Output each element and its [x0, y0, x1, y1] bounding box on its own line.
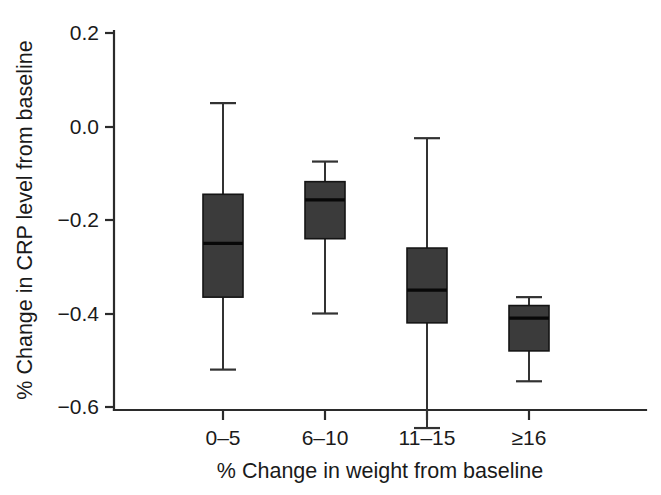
y-tick-label-0: 0.2	[70, 21, 99, 44]
y-tick-label-1: 0.0	[70, 115, 99, 138]
x-tick-label-1: 6–10	[302, 426, 349, 449]
interquartile-box	[305, 182, 345, 239]
y-tick-label-2: −0.2	[58, 208, 99, 231]
y-axis-title: % Change in CRP level from baseline	[13, 40, 37, 399]
box-plot-series	[203, 103, 549, 428]
x-tick-label-2: 11–15	[399, 426, 456, 449]
y-tick-label-4: −0.6	[58, 395, 99, 418]
interquartile-box	[203, 194, 243, 297]
y-axis-ticks: 0.2 0.0 −0.2 −0.4 −0.6	[58, 21, 114, 418]
box-plot-item	[203, 103, 243, 369]
x-tick-label-3: ≥16	[512, 426, 547, 449]
box-plot-figure: 0.2 0.0 −0.2 −0.4 −0.6 0–5 6–10 11–15 ≥1…	[0, 0, 661, 495]
x-tick-label-0: 0–5	[205, 426, 240, 449]
box-plot-item	[305, 162, 345, 314]
y-tick-label-3: −0.4	[58, 302, 100, 325]
box-plot-item	[509, 297, 549, 381]
x-axis-ticks: 0–5 6–10 11–15 ≥16	[205, 410, 546, 449]
x-axis-title: % Change in weight from baseline	[217, 459, 543, 483]
interquartile-box	[407, 248, 447, 323]
interquartile-box	[509, 306, 549, 351]
box-plot-item	[407, 138, 447, 428]
